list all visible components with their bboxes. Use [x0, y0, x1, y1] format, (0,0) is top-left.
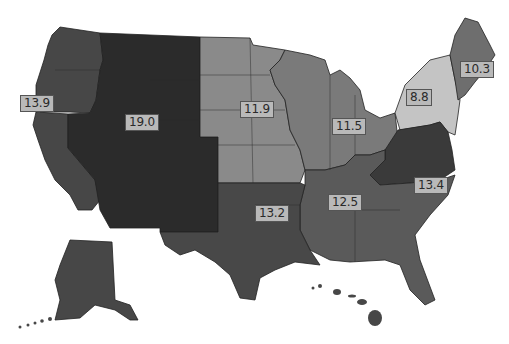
value-label-new-england: 10.3	[460, 61, 494, 78]
value-label-mid-atlantic: 13.4	[414, 177, 448, 194]
value-label-great-lakes: 11.5	[332, 118, 366, 135]
value-label-northwest: 13.9	[20, 95, 54, 112]
value-label-ny-nj: 8.8	[406, 89, 432, 106]
value-label-southeast: 12.5	[328, 194, 362, 211]
region-hawaii[interactable]	[312, 284, 383, 326]
value-label-south-central: 13.2	[255, 205, 289, 222]
aleutian-islands	[19, 317, 53, 329]
value-label-plains: 11.9	[240, 101, 274, 118]
region-new-england[interactable]	[450, 18, 495, 100]
us-choropleth-map	[0, 0, 509, 344]
value-label-mountain-west: 19.0	[125, 114, 159, 131]
region-alaska[interactable]	[55, 240, 138, 320]
